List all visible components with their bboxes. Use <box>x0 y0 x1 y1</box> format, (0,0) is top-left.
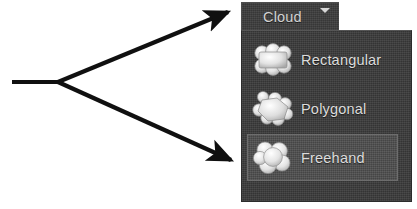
cloud-shape-menu[interactable]: Rectangular <box>241 30 412 202</box>
arrow-upper-branch <box>58 12 228 82</box>
cloud-dropdown-button[interactable]: Cloud <box>241 2 339 30</box>
screenshot-canvas: Cloud <box>0 0 417 209</box>
cloud-rectangular-icon <box>251 41 295 79</box>
arrow-lower-branch <box>58 82 231 160</box>
chevron-down-icon[interactable] <box>320 8 330 13</box>
cloud-button-label: Cloud <box>263 9 302 25</box>
menu-item-freehand[interactable]: Freehand <box>247 134 398 181</box>
menu-item-label: Freehand <box>301 150 365 166</box>
menu-item-polygonal[interactable]: Polygonal <box>247 85 398 132</box>
menu-item-label: Rectangular <box>301 52 381 68</box>
cloud-freehand-icon <box>251 139 295 177</box>
cloud-polygonal-icon <box>251 90 295 128</box>
menu-item-rectangular[interactable]: Rectangular <box>247 36 398 83</box>
menu-item-label: Polygonal <box>301 101 367 117</box>
